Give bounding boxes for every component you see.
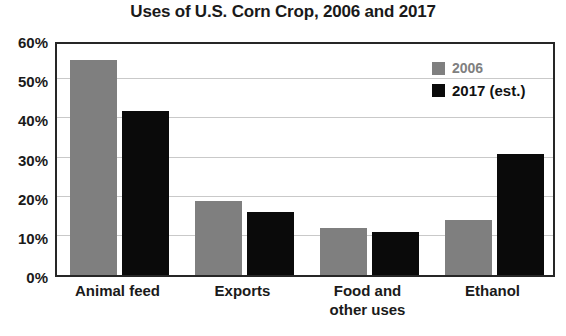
- legend-item-2017: 2017 (est.): [432, 80, 525, 100]
- y-axis-tick: 20%: [0, 190, 48, 207]
- y-axis-tick: 60%: [0, 34, 48, 51]
- legend-label-2017: 2017 (est.): [452, 82, 525, 99]
- chart-title: Uses of U.S. Corn Crop, 2006 and 2017: [0, 2, 566, 22]
- x-axis-tick: Animal feed: [75, 281, 160, 300]
- legend-swatch-2006-icon: [432, 62, 445, 75]
- bar-2017est-animal-feed: [122, 111, 169, 276]
- x-axis-category-labels: Animal feedExportsFood and other usesEth…: [55, 281, 555, 336]
- y-axis-tick: 40%: [0, 112, 48, 129]
- chart-legend: 2006 2017 (est.): [432, 58, 525, 102]
- x-axis-tick: Exports: [215, 281, 271, 300]
- y-axis-tick-labels: 0%10%20%30%40%50%60%: [0, 42, 48, 277]
- legend-label-2006: 2006: [452, 60, 483, 76]
- bar-2017est-ethanol: [497, 154, 544, 275]
- bar-2006-food-and-other-uses: [320, 228, 367, 275]
- x-axis-tick: Food and other uses: [330, 281, 406, 319]
- legend-item-2006: 2006: [432, 58, 525, 78]
- x-axis-tick: Ethanol: [465, 281, 520, 300]
- bar-2017est-exports: [247, 212, 294, 275]
- bar-2006-ethanol: [445, 220, 492, 275]
- y-axis-tick: 30%: [0, 151, 48, 168]
- bar-2006-exports: [195, 201, 242, 275]
- corn-crop-bar-chart: Uses of U.S. Corn Crop, 2006 and 2017 0%…: [0, 0, 566, 336]
- y-axis-tick: 50%: [0, 73, 48, 90]
- y-axis-tick: 10%: [0, 229, 48, 246]
- legend-swatch-2017-icon: [432, 84, 445, 97]
- y-axis-tick: 0%: [0, 269, 48, 286]
- bar-2017est-food-and-other-uses: [372, 232, 419, 275]
- bar-2006-animal-feed: [70, 60, 117, 275]
